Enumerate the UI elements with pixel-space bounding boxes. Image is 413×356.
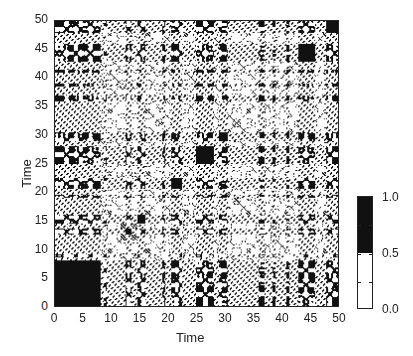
- colorbar-minor-tick: [369, 282, 372, 283]
- y-axis-label: Time: [19, 154, 34, 194]
- recurrence-heatmap: [55, 21, 338, 306]
- x-tick-label: 30: [213, 311, 237, 325]
- y-tick-label: 10: [18, 242, 48, 256]
- colorbar: [357, 196, 373, 309]
- y-tick-label: 50: [18, 12, 48, 26]
- x-axis-label: Time: [176, 330, 204, 345]
- x-tick-label: 15: [128, 311, 152, 325]
- colorbar-minor-tick: [358, 225, 361, 226]
- x-tick-label: 45: [299, 311, 323, 325]
- x-tick-label: 40: [270, 311, 294, 325]
- colorbar-minor-tick: [369, 225, 372, 226]
- x-tick-label: 0: [42, 311, 66, 325]
- y-tick-label: 30: [18, 127, 48, 141]
- x-tick-label: 35: [242, 311, 266, 325]
- y-tick-label: 5: [18, 270, 48, 284]
- x-tick-label: 20: [156, 311, 180, 325]
- x-tick-label: 50: [327, 311, 351, 325]
- colorbar-label-mid: 0.5: [382, 246, 399, 260]
- y-tick-label: 15: [18, 213, 48, 227]
- colorbar-minor-tick: [369, 254, 372, 255]
- x-tick-label: 10: [99, 311, 123, 325]
- colorbar-label-min: 0.0: [382, 302, 399, 316]
- x-tick-label: 25: [185, 311, 209, 325]
- y-tick-label: 45: [18, 41, 48, 55]
- y-tick-label: 35: [18, 98, 48, 112]
- x-tick-label: 5: [71, 311, 95, 325]
- y-tick-label: 40: [18, 69, 48, 83]
- colorbar-minor-tick: [358, 254, 361, 255]
- colorbar-minor-tick: [358, 282, 361, 283]
- recurrence-plot-area: [54, 20, 339, 307]
- colorbar-label-max: 1.0: [382, 190, 399, 204]
